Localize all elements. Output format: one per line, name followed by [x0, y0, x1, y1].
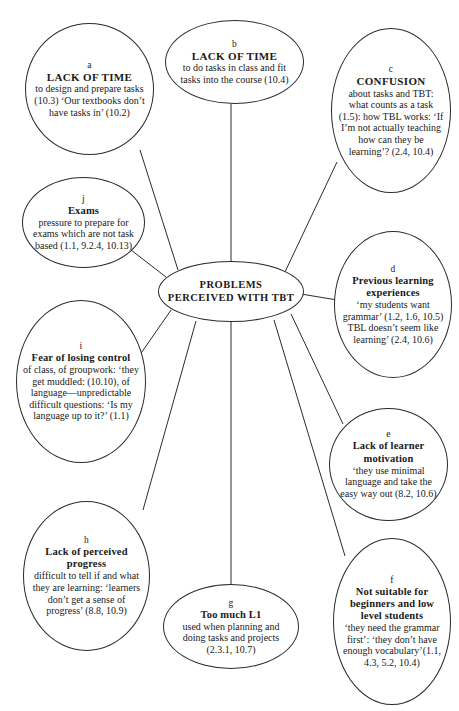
node-b-letter: b [232, 39, 237, 50]
node-a[interactable]: a LACK OF TIME to design and prepare tas… [25, 23, 154, 155]
node-a-body: to design and prepare tasks (10.3) ‘Our … [32, 83, 147, 118]
node-a-letter: a [87, 60, 91, 71]
node-e-letter: e [386, 429, 390, 440]
node-e[interactable]: e Lack of learner motivation ‘they use m… [329, 408, 448, 521]
node-e-body: ‘they use minimal language and take the … [336, 465, 441, 500]
node-j[interactable]: j Exams pressure to prepare for exams wh… [22, 177, 145, 268]
node-i[interactable]: i Fear of losing control of class, of gr… [16, 300, 146, 463]
node-g-heading: Too much L1 [201, 609, 262, 621]
node-e-heading: Lack of learner motivation [336, 440, 441, 464]
node-i-body: of class, of groupwork: ‘they get muddle… [23, 364, 139, 422]
node-h-heading: Lack of perceived progress [30, 546, 143, 570]
center-node-label: PROBLEMS PERCEIVED WITH TBT [165, 279, 297, 305]
node-i-heading: Fear of losing control [32, 352, 131, 364]
edge-center-e [291, 314, 343, 424]
node-g-letter: g [229, 598, 234, 609]
node-j-letter: j [82, 194, 85, 205]
node-d-body: ‘my students want grammar’ (1.2, 1.6, 10… [341, 299, 445, 345]
node-h-letter: h [84, 535, 89, 546]
node-f[interactable]: f Not suitable for beginners and low lev… [333, 538, 451, 705]
node-i-letter: i [80, 341, 83, 352]
node-j-heading: Exams [68, 205, 99, 217]
center-node[interactable]: PROBLEMS PERCEIVED WITH TBT [158, 261, 304, 322]
edge-center-a [140, 150, 178, 270]
node-j-body: pressure to prepare for exams which are … [29, 217, 138, 252]
node-d[interactable]: d Previous learning experiences ‘my stud… [334, 231, 452, 378]
edge-center-c [285, 162, 337, 272]
node-b[interactable]: b LACK OF TIME to do tasks in class and … [165, 20, 304, 104]
node-h-body: difficult to tell if and what they are l… [30, 570, 143, 616]
node-c[interactable]: c CONFUSION about tasks and TBT: what co… [331, 28, 451, 193]
concept-map: PROBLEMS PERCEIVED WITH TBT a LACK OF TI… [0, 0, 459, 711]
edge-center-j [131, 250, 166, 277]
node-c-body: about tasks and TBT: what counts as a ta… [338, 88, 444, 158]
node-d-letter: d [391, 264, 396, 275]
node-c-heading: CONFUSION [356, 75, 425, 88]
node-h[interactable]: h Lack of perceived progress difficult t… [23, 501, 150, 651]
node-f-heading: Not suitable for beginners and low level… [340, 586, 444, 623]
node-b-body: to do tasks in class and fit tasks into … [172, 62, 297, 85]
node-b-heading: LACK OF TIME [192, 50, 278, 63]
node-f-letter: f [390, 575, 393, 586]
node-f-body: ‘they need the grammar first’: ‘they don… [340, 622, 444, 668]
node-c-letter: c [389, 64, 393, 75]
node-d-heading: Previous learning experiences [341, 275, 445, 299]
edge-center-f [274, 320, 345, 556]
edge-center-d [301, 294, 337, 300]
node-g-body: used when planning and doing tasks and p… [170, 621, 292, 656]
node-a-heading: LACK OF TIME [47, 71, 133, 84]
edge-center-h [143, 321, 196, 510]
node-g[interactable]: g Too much L1 used when planning and doi… [163, 584, 299, 669]
